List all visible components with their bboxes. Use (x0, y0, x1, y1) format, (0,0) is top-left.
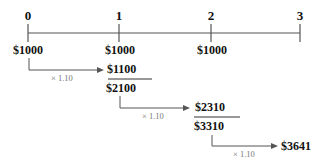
deposit-period-0: $1000 (13, 43, 43, 58)
grown-amount-2: $2310 (195, 100, 225, 115)
deposit-period-2: $1000 (197, 43, 227, 58)
arrow-step-1 (29, 58, 97, 70)
period-label-2: 2 (208, 8, 215, 24)
running-sum-2: $3310 (194, 119, 224, 134)
period-label-0: 0 (25, 8, 32, 24)
arrow-step-2 (120, 96, 183, 108)
period-label-1: 1 (116, 8, 123, 24)
timeline-diagram (0, 0, 328, 164)
arrowhead-3 (271, 143, 278, 149)
grown-amount-1: $1100 (107, 62, 136, 77)
period-label-3: 3 (297, 8, 304, 24)
multiplier-label-1: × 1.10 (51, 73, 73, 83)
arrowhead-1 (97, 67, 104, 73)
running-sum-1: $2100 (106, 81, 136, 96)
final-amount: $3641 (281, 139, 311, 154)
multiplier-label-2: × 1.10 (142, 111, 164, 121)
arrowhead-2 (183, 105, 190, 111)
multiplier-label-3: × 1.10 (233, 149, 255, 159)
deposit-period-1: $1000 (105, 43, 135, 58)
arrow-step-3 (212, 135, 271, 146)
